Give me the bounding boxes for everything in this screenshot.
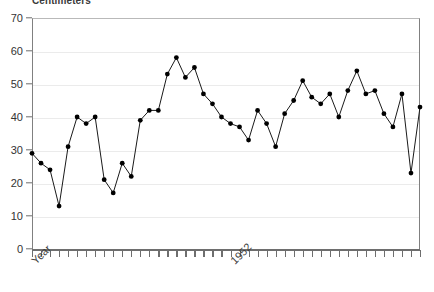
line-chart: Centimeters 010203040506070 Year 1952 — [0, 0, 434, 292]
data-point — [201, 92, 206, 97]
x-tick-mark — [203, 250, 204, 257]
x-tick-mark — [348, 250, 349, 257]
data-point — [219, 115, 224, 120]
data-point — [237, 125, 242, 130]
x-tick-mark — [59, 250, 60, 257]
x-tick-mark — [411, 250, 412, 257]
x-tick-mark — [258, 250, 259, 257]
data-point — [48, 167, 53, 172]
data-point — [400, 92, 405, 97]
data-point — [93, 115, 98, 120]
x-tick-mark — [402, 250, 403, 257]
data-point — [418, 105, 423, 110]
data-series — [32, 18, 420, 249]
data-point — [363, 92, 368, 97]
y-tick-label: 50 — [11, 78, 23, 90]
x-tick-mark — [393, 250, 394, 257]
data-point — [30, 151, 35, 156]
x-tick-mark — [366, 250, 367, 257]
data-point — [246, 138, 251, 143]
x-tick-mark — [185, 250, 186, 257]
data-point — [291, 98, 296, 103]
data-point — [57, 204, 62, 209]
data-point — [255, 108, 260, 113]
x-tick-mark — [267, 250, 268, 257]
y-tick-label: 60 — [11, 45, 23, 57]
data-point — [183, 75, 188, 80]
data-point — [382, 111, 387, 116]
data-point — [354, 68, 359, 73]
x-tick-mark — [176, 250, 177, 257]
data-point — [372, 88, 377, 93]
data-point — [39, 161, 44, 166]
x-tick-mark — [303, 250, 304, 257]
x-tick-mark — [312, 250, 313, 257]
data-point — [75, 115, 80, 120]
data-point — [391, 125, 396, 130]
data-point — [273, 144, 278, 149]
data-point — [409, 171, 414, 176]
data-point — [147, 108, 152, 113]
data-point — [300, 78, 305, 83]
x-tick-mark — [131, 250, 132, 257]
x-tick-mark — [86, 250, 87, 257]
x-tick-mark — [420, 250, 421, 257]
data-point — [120, 161, 125, 166]
y-axis: 010203040506070 — [0, 0, 32, 292]
data-point — [318, 101, 323, 106]
y-tick-label: 70 — [11, 12, 23, 24]
data-point — [156, 108, 161, 113]
x-tick-mark — [158, 250, 159, 257]
x-tick-mark — [294, 250, 295, 257]
x-tick-mark — [375, 250, 376, 257]
data-point — [228, 121, 233, 126]
x-tick-mark — [122, 250, 123, 257]
data-point — [345, 88, 350, 93]
x-tick-mark — [149, 250, 150, 257]
x-tick-mark — [140, 250, 141, 257]
x-tick-mark — [357, 250, 358, 257]
x-tick-mark — [384, 250, 385, 257]
data-point — [264, 121, 269, 126]
data-point — [174, 55, 179, 60]
data-point — [309, 95, 314, 100]
x-tick-mark — [95, 250, 96, 257]
x-tick-mark — [321, 250, 322, 257]
data-point — [129, 174, 134, 179]
x-tick-mark — [113, 250, 114, 257]
y-tick-label: 20 — [11, 177, 23, 189]
x-tick-mark — [104, 250, 105, 257]
y-tick-label: 0 — [17, 243, 23, 255]
x-tick-mark — [77, 250, 78, 257]
data-point — [102, 177, 107, 182]
x-tick-mark — [221, 250, 222, 257]
data-point — [66, 144, 71, 149]
x-tick-mark — [212, 250, 213, 257]
x-tick-mark — [339, 250, 340, 257]
x-tick-mark — [330, 250, 331, 257]
x-tick-mark — [285, 250, 286, 257]
data-point — [165, 72, 170, 77]
x-tick-mark — [276, 250, 277, 257]
data-point — [138, 118, 143, 123]
series-line — [32, 58, 420, 207]
data-point — [84, 121, 89, 126]
data-point — [327, 92, 332, 97]
y-tick-label: 30 — [11, 144, 23, 156]
data-point — [111, 191, 116, 196]
data-point — [192, 65, 197, 70]
data-point — [282, 111, 287, 116]
data-point — [210, 101, 215, 106]
y-tick-label: 40 — [11, 111, 23, 123]
x-axis-line — [32, 249, 420, 251]
x-tick-mark — [68, 250, 69, 257]
y-tick-label: 10 — [11, 210, 23, 222]
x-tick-mark — [194, 250, 195, 257]
chart-title: Centimeters — [32, 0, 91, 6]
x-tick-mark — [167, 250, 168, 257]
data-point — [336, 115, 341, 120]
